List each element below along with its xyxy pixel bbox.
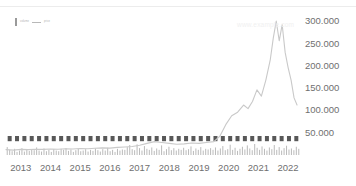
volume-bar [139, 148, 140, 155]
volume-bar [127, 147, 128, 155]
legend-line-swatch-icon [32, 22, 41, 23]
volume-bar [132, 149, 133, 155]
volume-bar [188, 149, 189, 155]
volume-bar [41, 152, 42, 155]
volume-bar [26, 150, 27, 155]
volume-bar [264, 149, 265, 155]
y-axis-tick-label: 250.000 [305, 39, 339, 49]
volume-marker [243, 136, 247, 141]
volume-bar [12, 151, 13, 155]
price-line [6, 21, 297, 150]
volume-bar [144, 146, 145, 155]
volume-bar [271, 149, 272, 155]
volume-marker [280, 136, 284, 141]
y-axis-tick-label: 200.000 [305, 61, 339, 71]
volume-marker [118, 136, 122, 141]
volume-bar [227, 149, 228, 155]
volume-marker [81, 136, 85, 141]
top-divider [0, 6, 356, 7]
volume-bar [88, 152, 89, 155]
volume-marker [52, 136, 56, 141]
volume-bar [154, 151, 155, 155]
x-axis-tick-label: 2019 [188, 163, 209, 173]
volume-bar [262, 146, 263, 155]
volume-bar [102, 149, 103, 155]
volume-marker [236, 136, 240, 141]
volume-bar [247, 145, 248, 155]
x-axis-tick-label: 2015 [70, 163, 91, 173]
volume-marker [96, 136, 100, 141]
volume-bar [254, 144, 255, 155]
volume-bar [266, 151, 267, 155]
volume-bar [186, 150, 187, 155]
volume-marker [66, 136, 70, 141]
volume-bar [195, 148, 196, 155]
volume-marker [30, 136, 34, 141]
legend-bar-swatch-icon [15, 18, 17, 26]
volume-markers [8, 136, 299, 141]
volume-marker [221, 136, 225, 141]
volume-bar [7, 147, 8, 155]
volume-marker [37, 136, 41, 141]
volume-bar [97, 150, 98, 155]
volume-bar [34, 150, 35, 155]
volume-bar [244, 150, 245, 156]
volume-marker [294, 136, 298, 141]
volume-bar [237, 151, 238, 155]
volume-bar [9, 150, 10, 155]
volume-marker [103, 136, 107, 141]
volume-bar [217, 151, 218, 155]
plot-svg [6, 10, 300, 155]
y-axis-tick-label: 300.000 [305, 16, 339, 26]
legend-label-volume: volume [20, 21, 29, 24]
volume-bar [112, 150, 113, 155]
volume-bar [286, 146, 287, 155]
volume-marker [184, 136, 188, 141]
volume-bar [193, 151, 194, 155]
volume-bar [213, 150, 214, 155]
volume-bar [68, 151, 69, 155]
volume-bar [36, 147, 37, 155]
volume-bar [274, 145, 275, 155]
volume-bar [149, 150, 150, 155]
volume-bar [239, 149, 240, 155]
volume-bar [70, 150, 71, 156]
volume-bar [232, 150, 233, 155]
volume-bar [159, 150, 160, 155]
volume-bar [53, 149, 54, 155]
volume-marker [140, 136, 144, 141]
volume-bar [210, 148, 211, 155]
volume-bar [183, 148, 184, 155]
volume-bar [100, 152, 101, 155]
volume-bar [279, 147, 280, 155]
volume-bar [171, 150, 172, 155]
volume-bar [85, 149, 86, 155]
volume-bar [78, 149, 79, 155]
volume-bar [298, 149, 299, 155]
x-axis-tick-label: 2013 [10, 163, 31, 173]
volume-bar [203, 151, 204, 155]
volume-bar [46, 151, 47, 155]
chart-container: www.example.com volume price 50.000100.0… [0, 0, 356, 186]
volume-marker [162, 136, 166, 141]
volume-marker [258, 136, 262, 141]
plot-area [6, 10, 300, 155]
volume-marker [147, 136, 151, 141]
volume-bar [220, 148, 221, 155]
volume-bar [222, 146, 223, 155]
volume-bar [230, 145, 231, 155]
x-axis-tick-label: 2017 [129, 163, 150, 173]
volume-bar [296, 147, 297, 155]
volume-bar [276, 150, 277, 155]
y-axis-tick-label: 100.000 [305, 105, 339, 115]
x-axis-tick-label: 2014 [40, 163, 61, 173]
volume-bar [190, 146, 191, 155]
volume-bar [24, 152, 25, 155]
volume-marker [111, 136, 115, 141]
x-axis-tick-label: 2022 [278, 163, 299, 173]
volume-bar [146, 149, 147, 155]
volume-bar [61, 149, 62, 155]
volume-marker [265, 136, 269, 141]
volume-bar [200, 147, 201, 155]
volume-marker [169, 136, 173, 141]
